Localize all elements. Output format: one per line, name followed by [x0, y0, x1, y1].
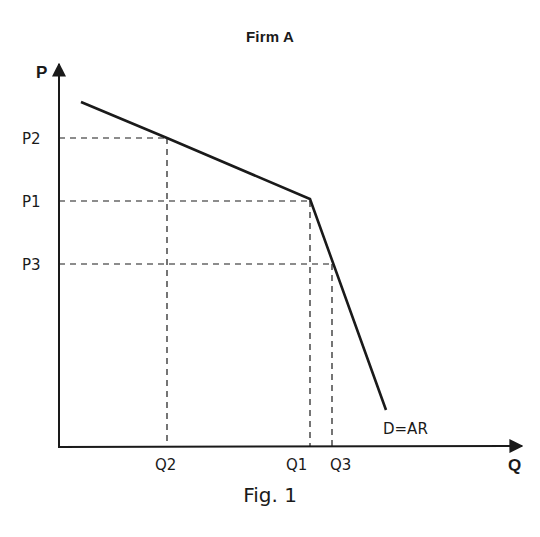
curve-label-d-ar: D=AR — [383, 420, 428, 438]
y-axis-label: P — [36, 63, 47, 82]
reference-lines — [59, 138, 332, 447]
x-tick-q3: Q3 — [330, 456, 351, 474]
y-tick-p2: P2 — [22, 130, 41, 148]
y-tick-p3: P3 — [22, 256, 41, 274]
figure-caption: Fig. 1 — [0, 483, 540, 507]
demand-curve — [81, 102, 386, 410]
kinked-demand-chart: P Q P2 P1 P3 Q2 Q1 Q3 D=AR — [0, 0, 540, 537]
x-tick-q2: Q2 — [155, 456, 176, 474]
x-axis-label: Q — [508, 456, 521, 475]
x-tick-q1: Q1 — [286, 456, 307, 474]
x-axis — [58, 446, 522, 447]
y-tick-p1: P1 — [22, 193, 41, 211]
